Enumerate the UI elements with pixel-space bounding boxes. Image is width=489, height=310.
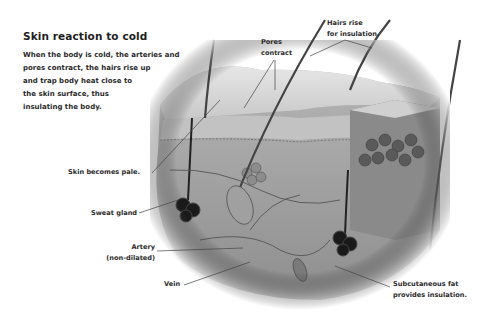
- label-hairs-rise: Hairs rise for insulation.: [327, 18, 379, 40]
- label-line: Pores: [261, 37, 292, 48]
- skin-cross-section-illustration: [0, 0, 489, 310]
- label-pores-contract: Pores contract: [261, 37, 292, 59]
- label-line: Subcutaneous fat: [393, 279, 467, 290]
- description-line: When the body is cold, the arteries and: [23, 49, 193, 62]
- description-line: pores contract, the hairs rise up: [23, 62, 193, 75]
- label-line: for insulation.: [327, 29, 379, 40]
- label-line: Artery: [100, 242, 155, 253]
- label-line: (non-dilated): [100, 253, 155, 264]
- label-line: contract: [261, 48, 292, 59]
- diagram-title: Skin reaction to cold: [23, 30, 147, 42]
- label-line: Hairs rise: [327, 18, 379, 29]
- label-artery: Artery (non-dilated): [100, 242, 155, 264]
- diagram-description: When the body is cold, the arteries and …: [23, 49, 193, 114]
- description-line: and trap body heat close to: [23, 75, 193, 88]
- label-subcutaneous-fat: Subcutaneous fat provides insulation.: [393, 279, 467, 301]
- label-sweat-gland: Sweat gland: [91, 208, 137, 219]
- description-line: the skin surface, thus: [23, 88, 193, 101]
- description-line: insulating the body.: [23, 101, 193, 114]
- label-skin-pale: Skin becomes pale.: [68, 167, 140, 178]
- label-vein: Vein: [164, 279, 180, 290]
- label-line: provides insulation.: [393, 290, 467, 301]
- skin-block: [150, 20, 460, 310]
